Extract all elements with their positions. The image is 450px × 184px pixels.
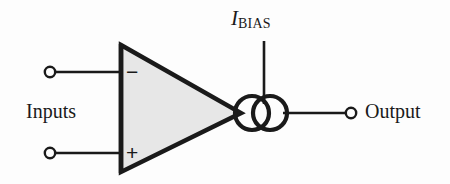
amplifier-triangle <box>121 45 241 172</box>
circuit-diagram: Inputs Output IBIAS − + <box>0 0 450 184</box>
circuit-schematic-svg <box>0 0 450 184</box>
noninverting-input-terminal <box>45 148 55 158</box>
output-label: Output <box>365 101 421 121</box>
inverting-input-sign: − <box>126 61 138 82</box>
inputs-label: Inputs <box>26 101 76 121</box>
output-terminal <box>346 108 356 118</box>
inverting-input-terminal <box>45 67 55 77</box>
noninverting-input-sign: + <box>126 142 138 163</box>
bias-current-subscript: BIAS <box>238 16 271 31</box>
bias-current-label: IBIAS <box>231 8 271 29</box>
bias-current-symbol: I <box>231 6 238 30</box>
